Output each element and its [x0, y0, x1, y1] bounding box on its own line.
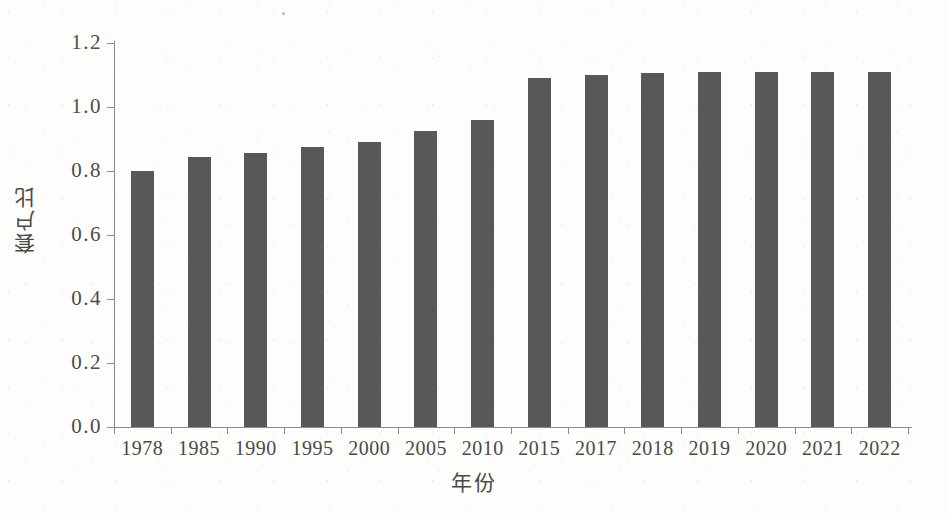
x-axis-tick: [568, 427, 569, 434]
x-axis-tick: [795, 427, 796, 434]
y-axis-title: 套户比: [16, 185, 50, 254]
bar: [188, 157, 211, 427]
y-axis-tick: [107, 235, 114, 236]
x-axis-tick-label: 2019: [689, 437, 731, 460]
bar: [868, 72, 891, 427]
x-axis-tick: [114, 427, 115, 434]
bar: [528, 78, 551, 427]
x-axis-tick: [171, 427, 172, 434]
y-axis-tick: [107, 107, 114, 108]
x-axis-tick: [851, 427, 852, 434]
y-axis-tick: [107, 427, 114, 428]
bar: [641, 73, 664, 427]
x-axis-tick-label: 2010: [462, 437, 504, 460]
bar: [244, 153, 267, 427]
x-axis-tick: [511, 427, 512, 434]
x-axis-tick: [681, 427, 682, 434]
x-axis-tick-label: 2000: [348, 437, 390, 460]
y-axis-tick: [107, 363, 114, 364]
x-axis-tick-label: 1985: [178, 437, 220, 460]
y-axis-tick-label: 0.8: [71, 158, 102, 183]
x-axis-tick: [227, 427, 228, 434]
bar: [585, 75, 608, 427]
x-axis-title: 年份: [0, 466, 948, 496]
x-axis-tick: [454, 427, 455, 434]
x-axis-tick-label: 2018: [632, 437, 674, 460]
x-axis-tick-label: 2021: [802, 437, 844, 460]
y-axis-tick-label: 0.0: [71, 414, 102, 439]
y-axis-tick: [107, 299, 114, 300]
y-axis-tick: [107, 171, 114, 172]
bar: [131, 171, 154, 427]
bar: [301, 147, 324, 427]
bar: [698, 72, 721, 427]
bar: [755, 72, 778, 427]
x-axis-tick: [624, 427, 625, 434]
x-axis-tick-label: 1978: [121, 437, 163, 460]
x-axis-tick-label: 2020: [745, 437, 787, 460]
y-axis-tick-label: 1.2: [71, 30, 102, 55]
y-axis-tick: [107, 43, 114, 44]
bar: [358, 142, 381, 427]
x-axis-tick: [341, 427, 342, 434]
bar: [471, 120, 494, 427]
x-axis-tick-label: 2017: [575, 437, 617, 460]
chart-figure: 套户比 0.00.20.40.60.81.01.2 年份 19781985199…: [0, 0, 948, 515]
x-axis-tick-label: 1990: [235, 437, 277, 460]
bar: [414, 131, 437, 427]
x-axis-tick: [738, 427, 739, 434]
x-axis-tick-label: 2022: [859, 437, 901, 460]
x-axis-tick-label: 2015: [518, 437, 560, 460]
y-axis-tick-label: 0.6: [71, 222, 102, 247]
y-axis-tick-label: 1.0: [71, 94, 102, 119]
y-axis-tick-label: 0.2: [71, 350, 102, 375]
scan-artifact-dot: [282, 12, 285, 15]
x-axis-tick: [908, 427, 909, 434]
bar: [811, 72, 834, 427]
plot-area: 0.00.20.40.60.81.01.2: [114, 43, 908, 427]
x-axis-tick-label: 1995: [292, 437, 334, 460]
x-axis-tick-label: 2005: [405, 437, 447, 460]
x-axis-tick: [284, 427, 285, 434]
y-axis-tick-label: 0.4: [71, 286, 102, 311]
x-axis-tick: [398, 427, 399, 434]
